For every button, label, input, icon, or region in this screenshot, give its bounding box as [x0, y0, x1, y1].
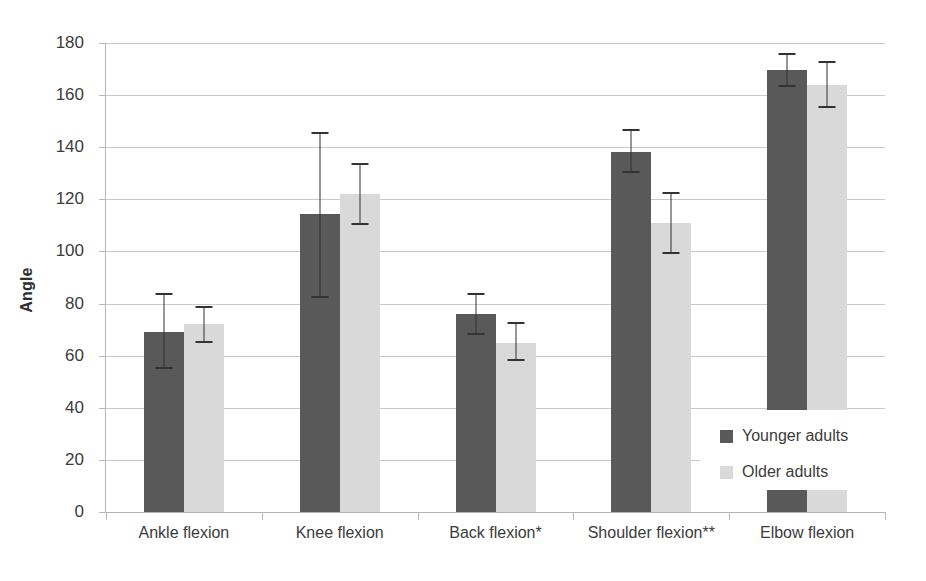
error-bar-cap-top [663, 192, 680, 194]
error-bar-stem [319, 132, 320, 299]
error-bar-cap-top [467, 293, 484, 295]
bar-chart: Angle 180160140120100806040200 Ankle fle… [0, 0, 926, 581]
bar [340, 194, 380, 512]
x-axis-tick-label: Elbow flexion [760, 524, 854, 542]
x-axis-end-tick [106, 512, 107, 520]
error-bar-stem [787, 53, 788, 87]
legend-item-older-adults: Older adults [720, 454, 848, 490]
x-axis-tick-label: Knee flexion [296, 524, 384, 542]
error-bar-stem [203, 306, 204, 342]
y-axis-tick [99, 460, 106, 461]
error-bar-cap-bottom [779, 85, 796, 87]
error-bar-cap-bottom [351, 223, 368, 225]
x-axis-separator [418, 512, 419, 520]
chart-legend: Younger adultsOlder adults [720, 418, 848, 490]
error-bar-cap-top [195, 306, 212, 308]
error-bar-cap-top [623, 129, 640, 131]
y-axis-tick-labels: 180160140120100806040200 [30, 43, 96, 512]
x-axis-tick-label: Shoulder flexion** [588, 524, 715, 542]
error-bar-cap-top [819, 61, 836, 63]
error-bar [807, 61, 847, 108]
y-axis-tick-label: 40 [24, 398, 84, 418]
legend-swatch-icon [720, 430, 733, 443]
error-bar-stem [827, 61, 828, 108]
error-bar-cap-top [155, 293, 172, 295]
error-bar-cap-bottom [819, 106, 836, 108]
error-bar [340, 163, 380, 226]
y-axis-tick [99, 43, 106, 44]
x-axis-tick-label: Ankle flexion [139, 524, 230, 542]
y-axis-tick [99, 356, 106, 357]
bar [611, 152, 651, 512]
y-axis-tick-label: 160 [24, 85, 84, 105]
x-axis-separator [573, 512, 574, 520]
error-bar [456, 293, 496, 335]
error-bar-stem [359, 163, 360, 226]
x-axis-separator [729, 512, 730, 520]
y-axis-tick-label: 140 [24, 137, 84, 157]
legend-item-younger-adults: Younger adults [720, 418, 848, 454]
error-bar-stem [631, 129, 632, 173]
bar [496, 343, 536, 512]
y-axis-tick-label: 80 [24, 294, 84, 314]
y-axis-tick [99, 408, 106, 409]
bar [184, 324, 224, 512]
y-axis-tick-label: 120 [24, 189, 84, 209]
y-axis-tick [99, 95, 106, 96]
error-bar-cap-bottom [155, 367, 172, 369]
error-bar-stem [515, 322, 516, 361]
error-bar-cap-bottom [623, 171, 640, 173]
error-bar-cap-bottom [195, 341, 212, 343]
y-axis-tick-label: 100 [24, 241, 84, 261]
x-axis-separator [262, 512, 263, 520]
x-axis-end-tick [885, 512, 886, 520]
y-axis-tick-label: 20 [24, 450, 84, 470]
error-bar-cap-top [779, 53, 796, 55]
y-axis-tick-label: 0 [24, 502, 84, 522]
error-bar-cap-bottom [663, 252, 680, 254]
legend-label: Younger adults [742, 427, 848, 445]
error-bar [300, 132, 340, 299]
y-axis-tick [99, 147, 106, 148]
error-bar-cap-top [507, 322, 524, 324]
y-axis-tick [99, 304, 106, 305]
error-bar [144, 293, 184, 369]
x-axis-line [106, 512, 885, 513]
error-bar [651, 192, 691, 255]
error-bar [184, 306, 224, 342]
error-bar-cap-top [351, 163, 368, 165]
bar [651, 223, 691, 512]
error-bar [611, 129, 651, 173]
error-bar-stem [163, 293, 164, 369]
error-bar [496, 322, 536, 361]
error-bar-cap-bottom [467, 333, 484, 335]
y-axis-tick [99, 512, 106, 513]
legend-swatch-icon [720, 466, 733, 479]
bar [456, 314, 496, 512]
error-bar [767, 53, 807, 87]
error-bar-stem [671, 192, 672, 255]
y-axis-tick-label: 60 [24, 346, 84, 366]
error-bar-cap-top [311, 132, 328, 134]
legend-label: Older adults [742, 463, 828, 481]
y-axis-tick [99, 251, 106, 252]
y-axis-tick-label: 180 [24, 33, 84, 53]
error-bar-stem [475, 293, 476, 335]
error-bar-cap-bottom [311, 296, 328, 298]
error-bar-cap-bottom [507, 359, 524, 361]
x-axis-tick-label: Back flexion* [449, 524, 542, 542]
y-axis-tick [99, 199, 106, 200]
